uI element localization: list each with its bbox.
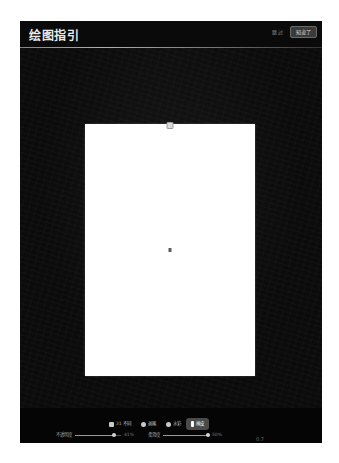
tab-mode-3[interactable]: 橡皮 xyxy=(186,418,209,430)
slider-row: 不透明度 41% 柔滑度 50% 0.7 xyxy=(20,432,322,443)
tab-mode-0-label: 21 不同 xyxy=(116,421,131,427)
opacity-slider-fill xyxy=(75,435,114,436)
canvas-resize-handle[interactable] xyxy=(167,122,174,129)
tab-mode-3-label: 橡皮 xyxy=(196,421,204,427)
dot-icon xyxy=(166,422,171,427)
opacity-slider[interactable] xyxy=(75,435,121,436)
softness-slider-knob[interactable] xyxy=(206,433,210,437)
square-icon xyxy=(109,422,114,427)
opacity-slider-group: 不透明度 41% xyxy=(56,432,134,438)
app-window: 绘图指引 跳过 知道了 21 不同 画笔 水彩 xyxy=(20,21,322,443)
app-header: 绘图指引 跳过 知道了 xyxy=(20,21,322,47)
tab-mode-1[interactable]: 画笔 xyxy=(136,418,161,430)
softness-slider-value: 50% xyxy=(212,432,222,438)
opacity-slider-label: 不透明度 xyxy=(56,432,72,438)
skip-button[interactable]: 跳过 xyxy=(272,28,283,37)
tab-mode-0[interactable]: 21 不同 xyxy=(104,418,136,430)
bottom-toolbar: 21 不同 画笔 水彩 橡皮 不透明度 4 xyxy=(20,408,322,443)
drawing-workspace[interactable] xyxy=(20,48,322,408)
bar-icon xyxy=(191,421,194,427)
tab-mode-2-label: 水彩 xyxy=(173,421,181,427)
tab-mode-2[interactable]: 水彩 xyxy=(161,418,186,430)
header-actions: 跳过 知道了 xyxy=(272,26,317,38)
softness-slider-label: 柔滑度 xyxy=(148,432,160,438)
drawing-canvas[interactable] xyxy=(85,124,255,376)
dot-icon xyxy=(141,422,146,427)
tab-mode-1-label: 画笔 xyxy=(148,421,156,427)
softness-slider-fill xyxy=(163,435,208,436)
opacity-slider-value: 41% xyxy=(124,432,134,438)
value-readout: 0.7 xyxy=(256,436,264,442)
opacity-slider-knob[interactable] xyxy=(112,433,116,437)
confirm-button[interactable]: 知道了 xyxy=(290,26,317,38)
brush-mode-tabs: 21 不同 画笔 水彩 橡皮 xyxy=(104,418,209,430)
canvas-center-marker xyxy=(169,248,172,252)
softness-slider-group: 柔滑度 50% xyxy=(148,432,222,438)
page-title: 绘图指引 xyxy=(29,26,79,43)
softness-slider[interactable] xyxy=(163,435,209,436)
